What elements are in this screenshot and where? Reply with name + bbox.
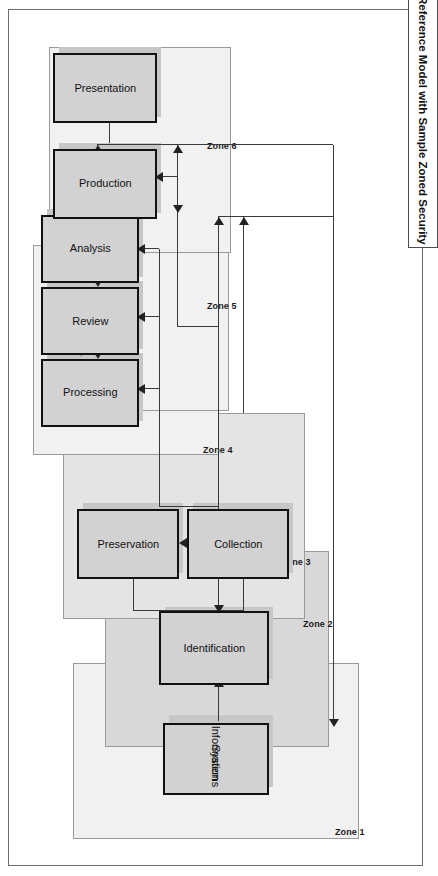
connector-bus-to-analysis <box>145 248 159 249</box>
node-production[interactable]: Production <box>53 149 157 219</box>
arrowhead-return-infosys <box>329 719 339 727</box>
return-bus-trunk <box>97 144 333 145</box>
zone-6-label: Zone 6 <box>207 141 237 151</box>
connector-review-production-v <box>177 326 219 327</box>
connector-bus-horizontal <box>159 249 160 507</box>
node-label-collection: Collection <box>213 537 261 550</box>
node-preservation[interactable]: Preservation <box>77 509 179 579</box>
connector-bus-to-processing <box>145 388 159 389</box>
return-branch-production-h <box>177 145 178 207</box>
node-analysis[interactable]: Analysis <box>41 215 139 283</box>
connector-collection-bus-up <box>159 506 219 507</box>
arrowhead-return-production <box>173 205 183 213</box>
diagram-title-box: The Electronic Discovery Reference Model… <box>408 0 438 248</box>
arrowhead-return-identification-bus <box>214 217 224 225</box>
node-label-presentation: Presentation <box>74 81 136 94</box>
connector-review-production-up <box>163 176 177 177</box>
return-bus-bottom <box>333 145 334 721</box>
arrowhead-return-production-bus <box>173 145 183 153</box>
node-identification[interactable]: Identification <box>159 611 269 685</box>
return-branch-collection-h <box>243 217 244 413</box>
node-collection[interactable]: Collection <box>187 509 289 579</box>
zone-5-label: Zone 5 <box>207 301 237 311</box>
diagram-title-rotated: The Electronic Discovery Reference Model… <box>408 0 438 248</box>
node-presentation[interactable]: Presentation <box>53 53 157 123</box>
zone-1-label: Zone 1 <box>335 827 365 837</box>
arrowhead-collection-preservation <box>179 538 187 548</box>
node-label-information-systems-line2: Systems <box>209 737 222 792</box>
diagram-title: The Electronic Discovery Reference Model… <box>417 0 429 245</box>
zone-2-label: Zone 2 <box>303 619 333 629</box>
node-information-systems[interactable]: InformationSystems <box>163 723 269 795</box>
connector-bus-to-review <box>145 316 159 317</box>
node-label-preservation: Preservation <box>97 537 159 550</box>
node-label-identification: Identification <box>183 641 245 654</box>
diagram-canvas: Zone 1 Zone 2 Zone 3 Zone 4 Zone 5 Zone … <box>17 19 415 857</box>
node-review[interactable]: Review <box>41 287 139 355</box>
return-branch-identification-v <box>218 216 333 217</box>
node-label-processing: Processing <box>62 386 116 399</box>
node-processing[interactable]: Processing <box>41 359 139 427</box>
arrowhead-return-collection-bus <box>239 217 249 225</box>
page-frame: Zone 1 Zone 2 Zone 3 Zone 4 Zone 5 Zone … <box>8 9 423 866</box>
diagram-canvas-rotated: Zone 1 Zone 2 Zone 3 Zone 4 Zone 5 Zone … <box>17 19 415 857</box>
node-label-review: Review <box>71 314 107 327</box>
node-label-analysis: Analysis <box>69 242 110 255</box>
node-label-production: Production <box>78 177 131 190</box>
node-label-information-systems: InformationSystems <box>188 746 243 771</box>
